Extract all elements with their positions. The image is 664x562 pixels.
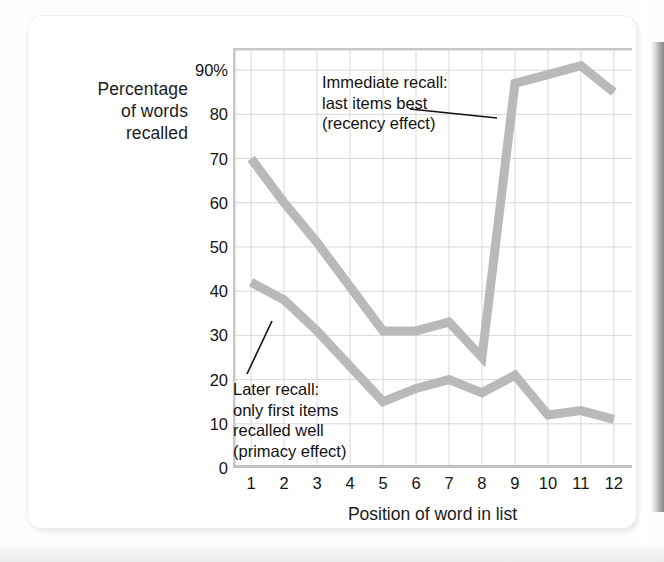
x-axis-tick-label: 2 xyxy=(280,474,289,493)
annotation-primacy: Later recall: only first items recalled … xyxy=(233,379,346,461)
scanned-page: Percentage of words recalled 90%80706050… xyxy=(0,0,664,562)
x-axis-tick-label: 12 xyxy=(605,474,623,493)
y-axis-tick-label: 50 xyxy=(176,237,228,256)
annotation-primacy-line-1: Later recall: xyxy=(233,379,346,400)
page-edge-shadow xyxy=(650,42,664,512)
page-bottom-shadow xyxy=(0,544,664,562)
y-axis-title-line-2: of words xyxy=(18,100,188,122)
y-axis-tick-label: 20 xyxy=(176,370,228,389)
y-axis-tick-label: 80 xyxy=(176,105,228,124)
x-axis-title: Position of word in list xyxy=(233,504,632,525)
x-axis-tick-labels: 123456789101112 xyxy=(233,474,632,500)
annotation-primacy-line-3: recalled well xyxy=(233,420,346,441)
page-edge-gutter xyxy=(640,0,650,562)
y-axis-tick-label: 60 xyxy=(176,193,228,212)
x-axis-tick-label: 6 xyxy=(411,474,420,493)
annotation-recency-line-2: last items best xyxy=(322,93,448,114)
y-axis-title-line-1: Percentage xyxy=(18,78,188,100)
x-axis-tick-label: 8 xyxy=(477,474,486,493)
x-axis-tick-label: 5 xyxy=(378,474,387,493)
annotation-primacy-line-4: (primacy effect) xyxy=(233,441,346,462)
y-axis-tick-labels: 90%80706050403020100 xyxy=(172,0,228,562)
x-axis-tick-label: 7 xyxy=(444,474,453,493)
y-axis-title-line-3: recalled xyxy=(18,122,188,144)
y-axis-tick-label: 90% xyxy=(176,61,228,80)
x-axis-tick-label: 1 xyxy=(247,474,256,493)
y-axis-title: Percentage of words recalled xyxy=(18,78,188,144)
annotation-recency: Immediate recall: last items best (recen… xyxy=(322,72,448,134)
x-axis-tick-label: 11 xyxy=(572,474,589,493)
x-axis-tick-label: 10 xyxy=(539,474,557,493)
y-axis-tick-label: 0 xyxy=(176,459,228,478)
y-axis-tick-label: 40 xyxy=(176,282,228,301)
annotation-recency-line-3: (recency effect) xyxy=(322,113,448,134)
y-axis-tick-label: 30 xyxy=(176,326,228,345)
annotation-recency-line-1: Immediate recall: xyxy=(322,72,448,93)
annotation-primacy-line-2: only first items xyxy=(233,400,346,421)
x-axis-tick-label: 4 xyxy=(345,474,354,493)
y-axis-tick-label: 70 xyxy=(176,149,228,168)
x-axis-tick-label: 9 xyxy=(510,474,519,493)
y-axis-tick-label: 10 xyxy=(176,414,228,433)
x-axis-tick-label: 3 xyxy=(312,474,321,493)
